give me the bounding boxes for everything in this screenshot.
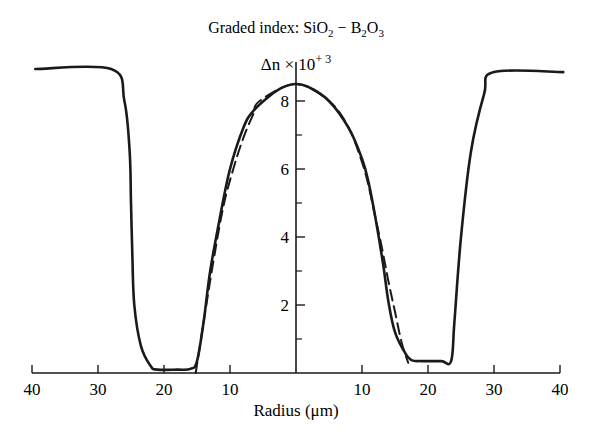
y-tick-label: 4 — [281, 228, 290, 247]
chart-title: Graded index: SiO2 − B2O3 — [208, 19, 384, 39]
x-tick-label: 30 — [90, 380, 107, 399]
x-tick-label: 20 — [156, 380, 173, 399]
measured-profile-line — [35, 66, 563, 369]
y-tick-label: 2 — [281, 296, 290, 315]
y-tick-label: 8 — [281, 92, 290, 111]
y-tick-label: 6 — [281, 160, 290, 179]
x-tick-label: 40 — [552, 380, 569, 399]
x-tick-label: 40 — [24, 380, 41, 399]
x-tick-label: 20 — [420, 380, 437, 399]
series-group — [35, 66, 563, 373]
x-tick-label: 10 — [222, 380, 239, 399]
chart-canvas: Graded index: SiO2 − B2O3 Δn × 10+ 3 403… — [0, 0, 592, 433]
x-tick-label: 10 — [354, 380, 371, 399]
x-tick-label: 30 — [486, 380, 503, 399]
x-axis-label: Radius (μm) — [253, 401, 338, 420]
